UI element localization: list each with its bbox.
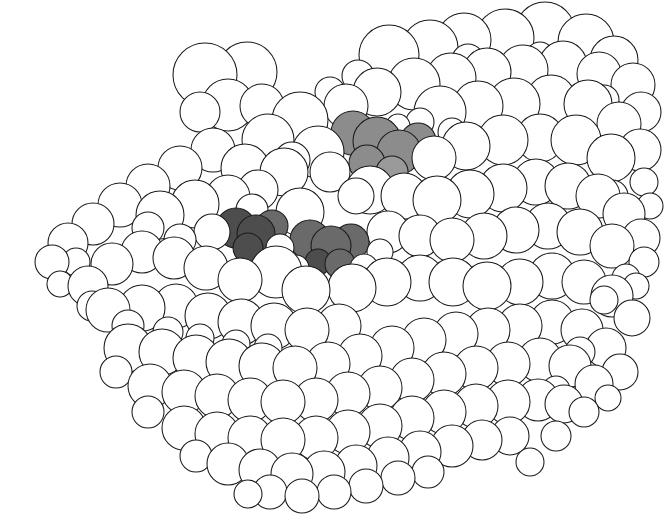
atom-sphere	[590, 286, 618, 314]
atom-sphere	[194, 214, 230, 250]
molecular-model-figure: Space-filling (CPK) model of a globular …	[0, 0, 664, 521]
atom-sphere	[541, 421, 571, 451]
atom-sphere	[412, 456, 444, 488]
atom-sphere	[590, 224, 634, 268]
atom-sphere	[614, 300, 650, 336]
atom-sphere	[285, 479, 319, 513]
atom-sphere	[338, 178, 374, 214]
atom-sphere	[630, 168, 658, 196]
atom-sphere	[317, 475, 351, 509]
atom-sphere	[132, 396, 164, 428]
atom-sphere	[234, 480, 262, 508]
atom-sphere	[349, 469, 383, 503]
atom-sphere	[412, 136, 456, 180]
atom-sphere	[430, 218, 474, 262]
atom-sphere	[180, 92, 220, 132]
atom-sphere	[100, 356, 132, 388]
atom-sphere	[516, 448, 544, 476]
space-filling-model-canvas	[0, 0, 664, 521]
atom-sphere	[569, 397, 599, 427]
atom-sphere	[218, 258, 262, 302]
atom-sphere	[261, 380, 305, 424]
atom-sphere	[381, 461, 415, 495]
atom-sphere	[595, 385, 621, 411]
atom-sphere	[463, 262, 511, 310]
atom-sphere	[282, 266, 330, 314]
